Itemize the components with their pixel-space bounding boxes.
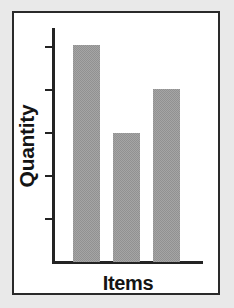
y-axis-line [52, 28, 55, 264]
bar-1[interactable] [73, 45, 100, 262]
y-axis-tick-2 [45, 175, 55, 177]
y-axis-label: Quantity [15, 91, 39, 201]
y-axis-tick-5 [45, 46, 55, 48]
x-axis-label: Items [52, 272, 204, 295]
y-axis-tick-4 [45, 89, 55, 91]
plot-area: Quantity Items [0, 0, 234, 308]
bar-chart-figure: Quantity Items [0, 0, 234, 308]
bar-2[interactable] [113, 133, 140, 262]
y-axis-tick-3 [45, 132, 55, 134]
y-axis-tick-1 [45, 218, 55, 220]
bar-3[interactable] [153, 89, 180, 262]
